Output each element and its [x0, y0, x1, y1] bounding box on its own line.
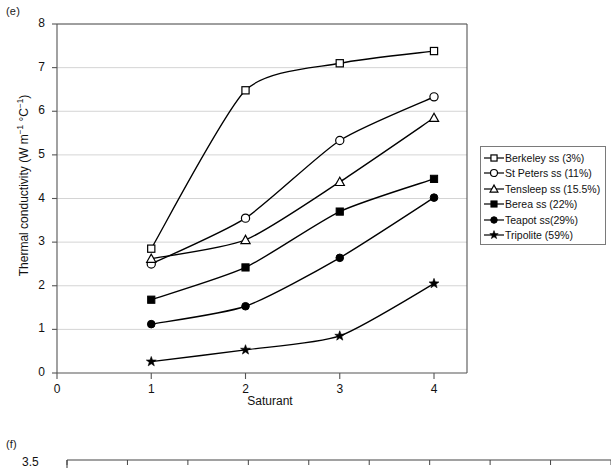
legend-label: Teapot ss(29%): [505, 213, 578, 227]
filled-square-icon: [483, 197, 505, 211]
legend[interactable]: Berkeley ss (3%)St Peters ss (11%)Tensle…: [480, 146, 606, 245]
open-triangle-icon: [483, 182, 505, 196]
x-tick-label: 4: [421, 382, 447, 396]
legend-label: Berea ss (22%): [505, 197, 577, 211]
y-tick-label: 7: [19, 60, 45, 74]
legend-label: St Peters ss (11%): [505, 166, 592, 180]
y-tick-label: 3: [19, 234, 45, 248]
open-square-icon: [483, 151, 505, 165]
y-tick-label: 0: [19, 365, 45, 379]
figure-container: (e) Thermal conductivity (W m−1 °C−1) Sa…: [0, 0, 611, 468]
panel-f-axis: [67, 460, 611, 468]
y-tick-label: 5: [19, 147, 45, 161]
gridlines: [57, 24, 467, 329]
panel-label-f: (f): [6, 438, 17, 450]
y-tick-label: 4: [19, 191, 45, 205]
series-1: [148, 47, 438, 252]
legend-label: Tripolite (59%): [505, 228, 573, 242]
x-tick-label: 2: [233, 382, 259, 396]
filled-circle-icon: [483, 213, 505, 227]
x-tick-label: 3: [327, 382, 353, 396]
legend-item-6[interactable]: Tripolite (59%): [483, 228, 603, 244]
y-tick-label: 8: [19, 16, 45, 30]
axis-lines: [52, 24, 467, 379]
y-tick-label: 6: [19, 103, 45, 117]
y-tick-label: 1: [19, 321, 45, 335]
legend-item-1[interactable]: Berkeley ss (3%): [483, 150, 603, 166]
legend-item-4[interactable]: Berea ss (22%): [483, 197, 603, 213]
x-tick-label: 1: [138, 382, 164, 396]
legend-item-2[interactable]: St Peters ss (11%): [483, 166, 603, 182]
open-circle-icon: [483, 166, 505, 180]
legend-item-5[interactable]: Teapot ss(29%): [483, 212, 603, 228]
data-series-layer: [146, 47, 439, 365]
panel-f-first-ytick-label: 3.5: [22, 455, 39, 468]
x-tick-label: 0: [44, 382, 70, 396]
legend-label: Tensleep ss (15.5%): [505, 182, 600, 196]
legend-item-3[interactable]: Tensleep ss (15.5%): [483, 181, 603, 197]
y-tick-label: 2: [19, 278, 45, 292]
legend-label: Berkeley ss (3%): [505, 151, 584, 165]
filled-star-icon: [483, 228, 505, 242]
series-6: [146, 278, 439, 365]
